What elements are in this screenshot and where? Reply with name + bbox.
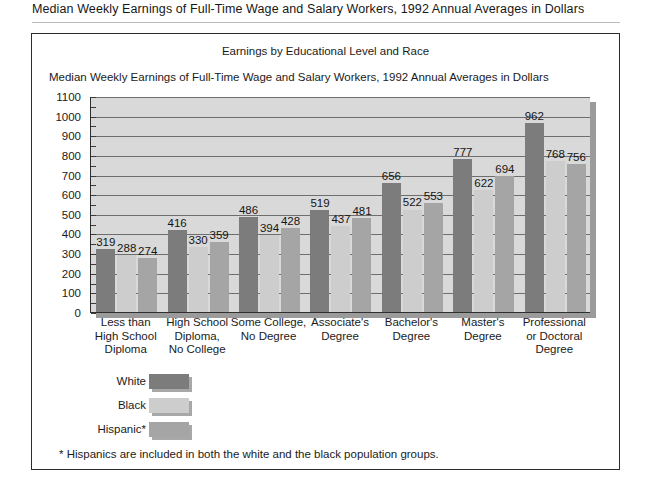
bar[interactable] — [546, 161, 565, 312]
x-axis-label-line: Professional — [513, 316, 596, 330]
bar[interactable] — [352, 218, 371, 312]
bar-value-label: 553 — [418, 191, 449, 203]
y-tick-label: 1000 — [55, 111, 81, 123]
legend-swatch — [149, 422, 189, 437]
bar[interactable] — [138, 258, 157, 312]
bar-value-label: 416 — [162, 218, 193, 230]
y-tick-mark — [91, 313, 96, 314]
bar-value-label: 962 — [519, 111, 550, 123]
bar[interactable] — [474, 190, 493, 312]
x-axis-label-line: No College — [155, 343, 238, 357]
footnote: * Hispanics are included in both the whi… — [59, 448, 439, 460]
bar-value-label: 777 — [447, 147, 478, 159]
page-header: Median Weekly Earnings of Full-Time Wage… — [0, 0, 652, 30]
plot-area: 3192882744163303594863944285194374816565… — [90, 97, 590, 313]
legend: WhiteBlackHispanic* — [72, 374, 242, 446]
y-tick-label: 100 — [62, 287, 81, 299]
bar[interactable] — [117, 255, 136, 312]
bar-group: 486394428 — [234, 97, 305, 312]
legend-swatch — [149, 398, 189, 413]
legend-swatch — [149, 374, 189, 389]
y-tick-label: 400 — [62, 228, 81, 240]
bar[interactable] — [567, 164, 586, 312]
bar-group: 656522553 — [377, 97, 448, 312]
bar-group: 777622694 — [448, 97, 519, 312]
y-tick-label: 900 — [62, 130, 81, 142]
y-tick-label: 600 — [62, 189, 81, 201]
y-tick-label: 800 — [62, 150, 81, 162]
bar-value-label: 274 — [132, 246, 163, 258]
y-tick-label: 300 — [62, 248, 81, 260]
y-axis: 110010009008007006005004003002001000 — [49, 97, 85, 313]
bar-value-label: 656 — [376, 171, 407, 183]
bar[interactable] — [495, 176, 514, 312]
bar-value-label: 486 — [233, 205, 264, 217]
bars-layer: 3192882744163303594863944285194374816565… — [91, 97, 590, 312]
bar[interactable] — [403, 210, 422, 313]
bar-group: 519437481 — [305, 97, 376, 312]
x-axis-labels: Less thanHigh SchoolDiplomaHigh SchoolDi… — [90, 316, 590, 372]
bar-chart: 110010009008007006005004003002001000 319… — [49, 97, 605, 327]
bar-value-label: 694 — [489, 164, 520, 176]
chart-title: Earnings by Educational Level and Race — [32, 45, 619, 57]
y-tick-label: 700 — [62, 170, 81, 182]
y-tick-label: 200 — [62, 268, 81, 280]
x-axis-label-line: Degree — [513, 343, 596, 357]
figure-panel: Earnings by Educational Level and Race M… — [31, 33, 620, 470]
bar-value-label: 481 — [346, 206, 377, 218]
bar[interactable] — [281, 228, 300, 312]
bar[interactable] — [424, 203, 443, 312]
bar[interactable] — [96, 249, 115, 312]
bar[interactable] — [189, 247, 208, 312]
legend-item[interactable]: White — [72, 374, 242, 398]
x-axis-category-label: Professionalor DoctoralDegree — [513, 316, 596, 357]
legend-label: White — [117, 375, 146, 387]
chart-subtitle: Median Weekly Earnings of Full-Time Wage… — [49, 71, 549, 83]
bar[interactable] — [260, 235, 279, 312]
legend-item[interactable]: Black — [72, 398, 242, 422]
header-divider — [32, 22, 620, 23]
y-tick-label: 500 — [62, 209, 81, 221]
x-axis-label-line: or Doctoral — [513, 330, 596, 344]
legend-label: Hispanic* — [97, 423, 146, 435]
y-tick-label: 0 — [75, 307, 81, 319]
legend-label: Black — [118, 399, 146, 411]
bar[interactable] — [331, 226, 350, 312]
page-title: Median Weekly Earnings of Full-Time Wage… — [32, 2, 584, 16]
bar-group: 319288274 — [91, 97, 162, 312]
bar-value-label: 359 — [204, 230, 235, 242]
bar-group: 962768756 — [520, 97, 591, 312]
y-tick-label: 1100 — [56, 91, 81, 103]
legend-item[interactable]: Hispanic* — [72, 422, 242, 446]
bar-value-label: 756 — [561, 152, 592, 164]
bar-value-label: 428 — [275, 216, 306, 228]
bar-value-label: 519 — [305, 198, 336, 210]
bar-group: 416330359 — [162, 97, 233, 312]
bar[interactable] — [210, 242, 229, 312]
